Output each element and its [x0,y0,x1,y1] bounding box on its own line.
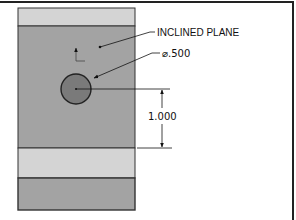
vertical-dimension-label: 1.000 [148,111,177,122]
top-light-strip [18,8,135,26]
middle-light-strip [18,148,135,178]
inclined-plane-label: INCLINED PLANE [157,27,240,38]
bottom-dark-face [18,178,135,210]
hole-diameter-label: ⌀.500 [162,48,190,59]
drawing-view: INCLINED PLANE ⌀.500 1.000 [0,0,296,220]
